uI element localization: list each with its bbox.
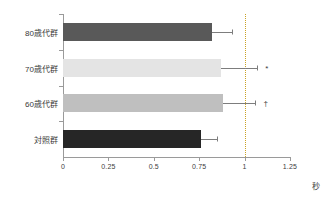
x-axis-tick-label: 0 [61, 163, 65, 170]
category-label: 対照群 [5, 134, 63, 145]
error-bar-cap [257, 65, 258, 70]
significance-marker: * [265, 63, 268, 72]
y-axis-tick [59, 14, 63, 15]
x-axis-line [63, 157, 290, 158]
bar [63, 59, 221, 77]
y-axis-tick [59, 86, 63, 87]
error-bar-cap [217, 137, 218, 142]
x-axis-tick-label: 0.5 [149, 163, 159, 170]
error-bar-cap [232, 29, 233, 34]
x-axis-tick-label: 0.75 [192, 163, 206, 170]
y-axis-tick [59, 121, 63, 122]
bar [63, 23, 212, 41]
error-bar-cap [255, 101, 256, 106]
category-label: 70歳代群 [5, 62, 63, 73]
x-axis-title: 秒 [312, 180, 320, 191]
x-axis-tick [245, 157, 246, 161]
x-axis-tick [108, 157, 109, 161]
x-axis-tick-label: 1.25 [283, 163, 297, 170]
error-bar [221, 68, 257, 69]
x-axis-tick-label: 1 [243, 163, 247, 170]
bar-chart: 80歳代群70歳代群60歳代群対照群 *† 00.250.50.7511.25 … [0, 0, 324, 202]
error-bar [212, 32, 232, 33]
x-axis-tick [63, 157, 64, 161]
category-label: 60歳代群 [5, 98, 63, 109]
x-axis-tick [290, 157, 291, 161]
error-bar [201, 139, 217, 140]
x-axis-tick [154, 157, 155, 161]
category-label: 80歳代群 [5, 26, 63, 37]
x-axis-tick [199, 157, 200, 161]
reference-line [245, 14, 246, 159]
error-bar [223, 103, 256, 104]
bar [63, 94, 223, 112]
bar [63, 130, 201, 148]
y-axis-tick [59, 50, 63, 51]
x-axis-tick-label: 0.25 [101, 163, 115, 170]
significance-marker: † [263, 99, 267, 108]
